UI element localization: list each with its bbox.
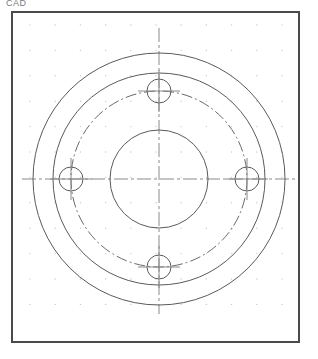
- grid-dot: [181, 253, 182, 254]
- grid-dot: [155, 151, 156, 152]
- grid-dot: [55, 278, 56, 279]
- grid-dot: [29, 24, 30, 25]
- grid-dot: [231, 202, 232, 203]
- grid-dot: [29, 253, 30, 254]
- grid-dot: [281, 126, 282, 127]
- grid-dot: [130, 151, 131, 152]
- grid-dot: [80, 126, 81, 127]
- grid-dot: [206, 126, 207, 127]
- grid-dot: [130, 228, 131, 229]
- grid-dot: [29, 177, 30, 178]
- grid-dot: [281, 177, 282, 178]
- grid-dot: [105, 253, 106, 254]
- grid-dot: [105, 126, 106, 127]
- grid-dot: [181, 126, 182, 127]
- grid-dot: [55, 126, 56, 127]
- grid-dot: [105, 24, 106, 25]
- snap-dot-grid: [29, 24, 282, 305]
- grid-dot: [231, 24, 232, 25]
- grid-dot: [231, 151, 232, 152]
- grid-dot: [256, 228, 257, 229]
- grid-dot: [29, 304, 30, 305]
- grid-dot: [155, 126, 156, 127]
- grid-dot: [130, 50, 131, 51]
- grid-dot: [206, 75, 207, 76]
- grid-dot: [256, 278, 257, 279]
- grid-dot: [206, 202, 207, 203]
- grid-dot: [256, 75, 257, 76]
- grid-dot: [130, 278, 131, 279]
- grid-dot: [29, 151, 30, 152]
- grid-dot: [155, 253, 156, 254]
- grid-dot: [130, 177, 131, 178]
- grid-dot: [256, 151, 257, 152]
- grid-dot: [181, 50, 182, 51]
- grid-dot: [231, 177, 232, 178]
- grid-dot: [29, 278, 30, 279]
- grid-dot: [130, 101, 131, 102]
- grid-dot: [281, 75, 282, 76]
- grid-dot: [80, 202, 81, 203]
- grid-dot: [80, 304, 81, 305]
- grid-dot: [55, 50, 56, 51]
- grid-dot: [256, 304, 257, 305]
- grid-dot: [181, 24, 182, 25]
- grid-dot: [29, 202, 30, 203]
- grid-dot: [256, 50, 257, 51]
- grid-dot: [181, 151, 182, 152]
- grid-dot: [206, 50, 207, 51]
- grid-dot: [55, 151, 56, 152]
- grid-dot: [206, 278, 207, 279]
- grid-dot: [130, 202, 131, 203]
- grid-dot: [155, 75, 156, 76]
- grid-dot: [80, 75, 81, 76]
- grid-dot: [281, 101, 282, 102]
- grid-dot: [181, 177, 182, 178]
- grid-dot: [130, 24, 131, 25]
- grid-dot: [55, 177, 56, 178]
- grid-dot: [55, 75, 56, 76]
- grid-dot: [206, 228, 207, 229]
- grid-dot: [281, 278, 282, 279]
- grid-dot: [281, 304, 282, 305]
- grid-dot: [29, 101, 30, 102]
- grid-dot: [206, 253, 207, 254]
- grid-dot: [130, 253, 131, 254]
- grid-dot: [105, 151, 106, 152]
- grid-dot: [281, 50, 282, 51]
- grid-dot: [105, 278, 106, 279]
- grid-dot: [256, 24, 257, 25]
- grid-dot: [130, 126, 131, 127]
- grid-dot: [206, 304, 207, 305]
- grid-dot: [206, 101, 207, 102]
- grid-dot: [80, 253, 81, 254]
- grid-dot: [231, 50, 232, 51]
- grid-dot: [231, 278, 232, 279]
- grid-dot: [29, 126, 30, 127]
- grid-dot: [181, 228, 182, 229]
- grid-dot: [80, 50, 81, 51]
- drawing-svg[interactable]: [0, 0, 318, 359]
- grid-dot: [155, 202, 156, 203]
- grid-dot: [256, 126, 257, 127]
- grid-dot: [80, 24, 81, 25]
- grid-dot: [155, 24, 156, 25]
- grid-dot: [29, 75, 30, 76]
- grid-dot: [231, 253, 232, 254]
- grid-dot: [256, 177, 257, 178]
- grid-dot: [206, 151, 207, 152]
- grid-dot: [80, 177, 81, 178]
- grid-dot: [80, 228, 81, 229]
- grid-dot: [105, 177, 106, 178]
- grid-dot: [105, 50, 106, 51]
- grid-dot: [55, 253, 56, 254]
- grid-dot: [80, 101, 81, 102]
- grid-dot: [281, 228, 282, 229]
- grid-dot: [256, 253, 257, 254]
- grid-dot: [105, 101, 106, 102]
- grid-dot: [281, 24, 282, 25]
- grid-dot: [206, 177, 207, 178]
- grid-dot: [181, 101, 182, 102]
- grid-dot: [206, 24, 207, 25]
- grid-dot: [155, 50, 156, 51]
